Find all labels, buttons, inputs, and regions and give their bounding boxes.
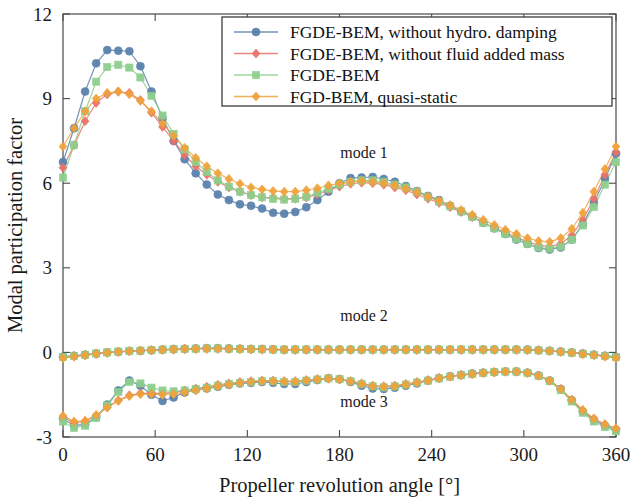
data-point-marker [252,71,259,78]
data-point-marker [247,191,254,198]
mode-annotation: mode 1 [340,144,388,161]
x-tick-label: 360 [602,444,631,465]
y-tick-label: -3 [36,427,52,448]
data-point-marker [568,236,575,243]
x-axis-title: Propeller revolution angle [°] [219,474,460,497]
data-point-marker [236,200,244,208]
data-point-marker [270,195,277,202]
data-point-marker [93,78,100,85]
data-point-marker [557,243,564,250]
legend-label: FGDE-BEM, without hydro. damping [290,22,557,42]
legend-label: FGDE-BEM, without fluid added mass [290,44,565,64]
data-point-marker [203,181,211,189]
data-point-marker [280,210,288,218]
y-tick-label: 9 [43,88,53,109]
data-point-marker [281,196,288,203]
y-tick-label: 0 [43,342,53,363]
data-point-marker [126,378,133,385]
data-point-marker [247,202,255,210]
data-point-marker [291,208,299,216]
y-axis-title: Modal participation factor [4,118,27,333]
data-point-marker [126,64,133,71]
data-point-marker [115,388,122,395]
legend-label: FGDE-BEM [290,65,380,85]
data-point-marker [137,74,144,81]
legend: FGDE-BEM, without hydro. dampingFGDE-BEM… [222,17,612,107]
data-point-marker [258,205,266,213]
data-point-marker [225,196,233,204]
data-point-marker [159,112,166,119]
x-tick-label: 240 [417,444,446,465]
x-tick-label: 0 [58,444,68,465]
data-point-marker [236,188,243,195]
y-tick-label: 3 [43,257,53,278]
data-point-marker [92,59,100,67]
data-point-marker [148,92,155,99]
x-tick-label: 300 [510,444,539,465]
data-point-marker [125,47,133,55]
data-point-marker [115,61,122,68]
data-point-marker [59,174,66,181]
y-tick-label: 6 [43,173,53,194]
data-point-marker [114,47,122,55]
data-point-marker [252,28,260,36]
chart-canvas: 060120180240300360-3036912Propeller revo… [0,0,633,502]
data-point-marker [136,62,144,70]
data-point-marker [214,190,222,198]
data-point-marker [70,142,77,149]
data-point-marker [103,46,111,54]
x-tick-label: 180 [325,444,354,465]
data-point-marker [225,183,232,190]
y-tick-label: 12 [33,4,52,25]
data-point-marker [579,222,586,229]
data-point-marker [612,158,619,165]
chart-figure: 060120180240300360-3036912Propeller revo… [0,0,633,502]
data-point-marker [104,63,111,70]
data-point-marker [590,204,597,211]
x-tick-label: 60 [146,444,165,465]
legend-label: FGD-BEM, quasi-static [290,87,457,107]
mode-annotation: mode 3 [340,393,388,410]
data-point-marker [269,209,277,217]
data-point-marker [601,181,608,188]
data-point-marker [302,203,310,211]
mode-annotation: mode 2 [340,307,388,324]
data-point-marker [137,380,144,387]
x-tick-label: 120 [233,444,262,465]
data-point-marker [81,88,89,96]
data-point-marker [258,194,265,201]
